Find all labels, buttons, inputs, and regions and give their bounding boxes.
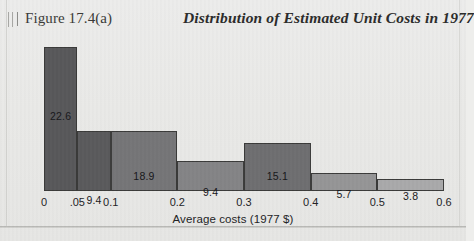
figure-number-label: Figure 17.4(a)	[25, 10, 112, 27]
histogram-bar: 9.4	[177, 161, 244, 191]
figure-title: Distribution of Estimated Unit Costs in …	[183, 9, 474, 27]
x-axis-tick-labels: 0.050.10.20.30.40.50.6	[0, 196, 466, 212]
histogram-bar: 3.8	[377, 179, 444, 191]
histogram-plot-area: 22.69.418.99.415.15.73.8	[0, 38, 466, 198]
x-tick-label: 0.6	[436, 196, 451, 208]
figure-border-bottom-shadow	[0, 227, 466, 228]
x-tick-label: 0.1	[103, 196, 118, 208]
x-tick-label: .05	[70, 196, 85, 208]
histogram-bar: 18.9	[111, 131, 178, 191]
figure-border-left	[6, 0, 7, 227]
scan-artifact-marks	[8, 12, 24, 27]
x-tick-label: 0.3	[236, 196, 251, 208]
histogram-bar-value: 15.1	[245, 170, 310, 182]
histogram-bar-value: 22.6	[45, 110, 76, 122]
x-tick-label: 0.2	[170, 196, 185, 208]
histogram-bar-value: 18.9	[112, 170, 177, 182]
histogram-bar: 9.4	[77, 131, 110, 191]
figure-border-bottom	[0, 226, 466, 227]
histogram-bar: 22.6	[44, 47, 77, 191]
x-tick-label: 0	[41, 196, 47, 208]
histogram-bar: 15.1	[244, 143, 311, 191]
figure-border-right	[459, 0, 460, 227]
figure-header: Figure 17.4(a) Distribution of Estimated…	[0, 8, 466, 32]
histogram-bar: 5.7	[311, 173, 378, 191]
x-tick-label: 0.4	[303, 196, 318, 208]
x-axis-title: Average costs (1977 $)	[0, 213, 466, 225]
x-tick-label: 0.5	[370, 196, 385, 208]
